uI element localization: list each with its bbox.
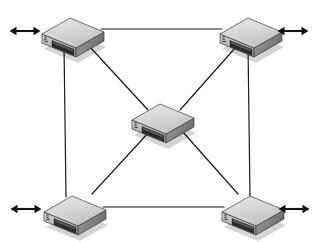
device-top-right[interactable] — [220, 18, 284, 63]
double-headed-arrow-icon-bottom-left — [11, 205, 42, 214]
double-headed-arrow-icon-top-left — [10, 27, 41, 36]
link-diag-tl-center — [90, 47, 148, 110]
device-center[interactable] — [132, 104, 196, 149]
link-diag-bl-center — [92, 131, 150, 194]
device-bottom-left[interactable] — [44, 196, 108, 241]
link-left-edge — [64, 45, 66, 197]
network-topology-diagram — [0, 0, 323, 242]
device-bottom-right[interactable] — [222, 196, 286, 241]
link-right-edge — [248, 45, 250, 197]
link-diag-br-center — [182, 131, 238, 194]
device-top-left[interactable] — [42, 18, 106, 63]
topology-canvas — [0, 0, 323, 242]
link-diag-tr-center — [180, 47, 236, 110]
